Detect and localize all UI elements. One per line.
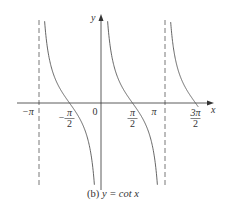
x-tick-labels: −ππ2−0π2π3π2: [22, 106, 201, 129]
y-axis-arrow-icon: [99, 14, 104, 21]
x-tick-label: 0: [93, 106, 98, 117]
x-tick-label: −: [59, 112, 65, 123]
caption-equation: y = cot x: [102, 188, 139, 199]
x-tick-label: 2: [130, 118, 135, 129]
cot-branch: [171, 22, 199, 107]
x-tick-label: 2: [67, 118, 72, 129]
x-tick-label: 2: [193, 118, 198, 129]
x-tick-label: π: [130, 107, 136, 118]
x-axis-label: x: [210, 104, 216, 115]
caption-prefix: (b): [87, 188, 99, 199]
x-tick-label: −π: [22, 106, 35, 117]
chart-caption: (b) y = cot x: [0, 188, 226, 199]
x-tick-label: π: [67, 107, 73, 118]
x-tick-label: 3π: [189, 107, 201, 118]
y-axis-label: y: [90, 12, 96, 23]
cot-graph: y x −ππ2−0π2π3π2: [0, 0, 226, 211]
x-tick-label: π: [151, 106, 157, 117]
